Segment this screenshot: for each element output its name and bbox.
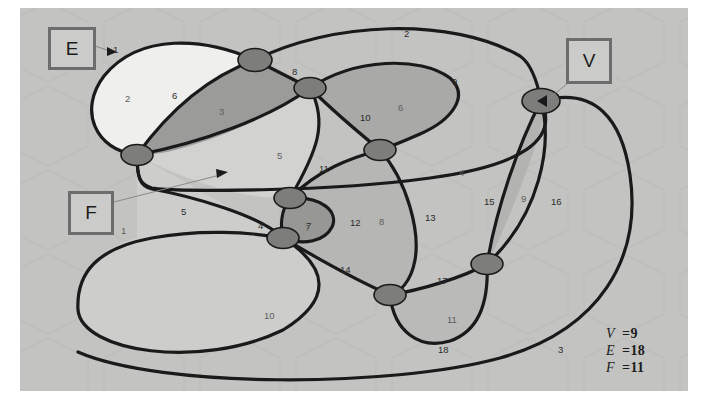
face-label: 3 xyxy=(219,106,224,117)
vertex-v7[interactable] xyxy=(374,285,406,306)
face-label: 5 xyxy=(277,150,282,161)
count-symbol-F: F xyxy=(606,359,622,376)
vertex-v5[interactable] xyxy=(274,188,306,209)
vertex-v4[interactable] xyxy=(364,140,396,161)
edge-label: 3 xyxy=(558,344,563,355)
count-value-E: 18 xyxy=(630,343,645,358)
edge-label: 10 xyxy=(360,112,371,123)
count-row-E: E=18 xyxy=(606,342,645,359)
edge-label: 16 xyxy=(551,196,562,207)
edge-label: 11 xyxy=(319,163,329,174)
face-label: 2 xyxy=(125,93,130,104)
count-value-F: 11 xyxy=(630,360,644,375)
vertex-v2[interactable] xyxy=(238,49,272,72)
euler-counts-legend: V=9 E=18 F=11 xyxy=(606,325,645,376)
vertex-v3[interactable] xyxy=(294,78,326,99)
callout-box-V[interactable]: V xyxy=(566,38,612,84)
callout-box-F[interactable]: F xyxy=(68,191,114,235)
vertex-v1[interactable] xyxy=(121,145,153,166)
callout-label-F: F xyxy=(85,202,97,224)
face-label: 7 xyxy=(305,222,310,233)
face-label: 6 xyxy=(398,102,403,113)
face-label: 1 xyxy=(121,225,126,236)
count-symbol-V: V xyxy=(606,325,622,342)
callout-label-E: E xyxy=(66,38,79,60)
edge-label: 17 xyxy=(437,275,448,286)
count-symbol-E: E xyxy=(606,342,622,359)
face-label: 8 xyxy=(379,216,384,227)
face-label: 11 xyxy=(447,314,457,325)
edge-label: 13 xyxy=(425,212,436,223)
edge-label: 8 xyxy=(292,66,297,77)
edge-label: 6 xyxy=(172,90,177,101)
callout-label-V: V xyxy=(583,50,596,72)
vertex-v8[interactable] xyxy=(471,254,503,275)
edge-label: 14 xyxy=(340,264,351,275)
edge-label: 18 xyxy=(438,344,449,355)
face-label: 10 xyxy=(264,310,275,321)
edge-label: 4 xyxy=(258,220,263,231)
face-label: 9 xyxy=(521,193,526,204)
edge-label: 1 xyxy=(113,44,118,55)
edge-label: 9 xyxy=(452,76,457,87)
edge-label: 5 xyxy=(181,206,186,217)
vertex-v6[interactable] xyxy=(267,228,299,249)
count-value-V: 9 xyxy=(630,326,637,341)
callout-box-E[interactable]: E xyxy=(48,27,96,70)
face-label: 4 xyxy=(459,167,464,178)
figure-page: E V F V=9 E=18 F=11 12345678910111213141… xyxy=(0,0,702,399)
edge-label: 15 xyxy=(484,196,495,207)
count-row-F: F=11 xyxy=(606,359,645,376)
count-row-V: V=9 xyxy=(606,325,645,342)
edge-label: 2 xyxy=(404,28,409,39)
edge-label: 12 xyxy=(350,217,361,228)
